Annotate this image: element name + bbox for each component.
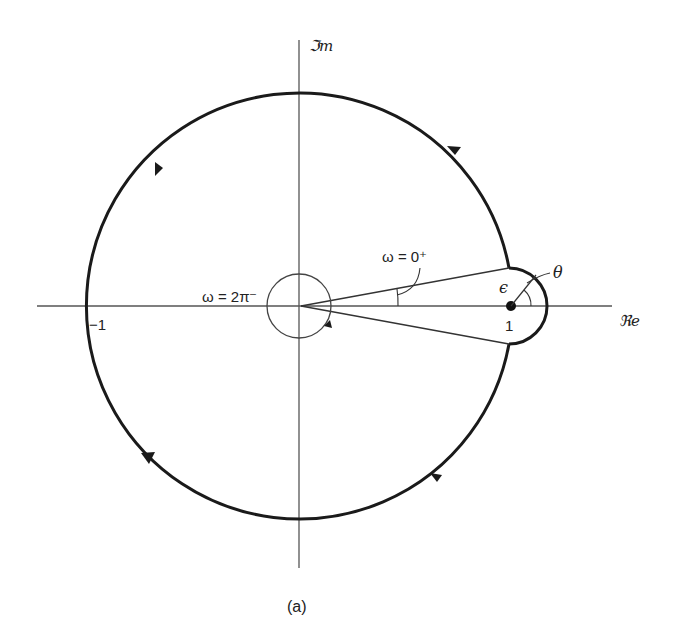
theta-angle-arc: [524, 290, 531, 306]
theta-label: θ: [553, 263, 563, 282]
figure-caption: (a): [287, 598, 307, 615]
omega-angle-arc: [397, 289, 398, 306]
omega-zero-leader: [397, 268, 420, 295]
wedge-lower-line: [301, 306, 509, 344]
real-axis-label: ℜe: [619, 312, 640, 330]
omega-two-pi-minus-label: ω = 2π⁻: [202, 288, 258, 305]
minus-one-label: −1: [89, 316, 106, 333]
omega-zero-plus-label: ω = 0⁺: [382, 248, 427, 265]
arrow-lower-right-icon: [430, 473, 442, 482]
wedge-upper-line: [301, 268, 509, 306]
one-label: 1: [505, 317, 513, 334]
direction-arrows: [141, 146, 461, 482]
arrow-upper-left-icon: [155, 162, 163, 176]
imag-axis-label: ℑm: [309, 37, 333, 55]
epsilon-label: ϵ: [499, 278, 508, 297]
nyquist-contour-diagram: ℑm ℜe −1 1 ω = 0⁺ ω = 2π⁻ ϵ θ (a): [0, 0, 677, 642]
